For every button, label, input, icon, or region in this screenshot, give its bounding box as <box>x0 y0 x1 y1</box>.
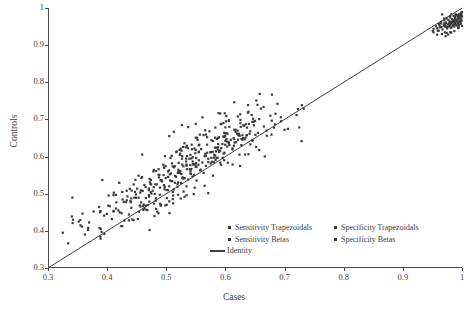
scatter-point <box>441 33 443 35</box>
scatter-point <box>134 191 136 193</box>
y-tick-label: 0.3 <box>18 263 44 272</box>
scatter-point <box>189 170 191 172</box>
scatter-point <box>129 188 131 190</box>
y-tick-label: 0.7 <box>18 114 44 123</box>
scatter-point <box>164 155 166 157</box>
scatter-point <box>213 154 215 156</box>
scatter-point <box>217 143 219 145</box>
scatter-point <box>180 182 182 184</box>
scatter-point <box>248 133 250 135</box>
scatter-point <box>133 183 135 185</box>
legend-row-3: Identity <box>210 245 419 257</box>
scatter-point <box>180 148 182 150</box>
scatter-point <box>100 231 102 233</box>
scatter-point <box>163 188 165 190</box>
scatter-point <box>181 158 183 160</box>
scatter-point <box>99 210 101 212</box>
scatter-point <box>234 131 236 133</box>
scatter-point <box>181 124 183 126</box>
scatter-point <box>236 130 238 132</box>
scatter-point <box>433 28 435 30</box>
x-tick-mark <box>225 268 226 271</box>
scatter-point <box>200 148 202 150</box>
scatter-point <box>233 145 235 147</box>
scatter-point <box>180 150 182 152</box>
scatter-point <box>214 127 216 129</box>
scatter-point <box>225 132 227 134</box>
scatter-point <box>141 154 143 156</box>
scatter-point <box>455 24 457 26</box>
scatter-point <box>246 134 248 136</box>
scatter-point <box>443 17 445 19</box>
scatter-point <box>195 157 197 159</box>
scatter-point <box>187 126 189 128</box>
scatter-point <box>260 108 262 110</box>
legend-item-sensitivity-trapezoidals[interactable]: Sensitivity Trapezoidals <box>228 222 334 234</box>
scatter-point <box>160 179 162 181</box>
scatter-point <box>195 123 197 125</box>
scatter-point <box>198 151 200 153</box>
scatter-point <box>214 159 216 161</box>
scatter-point <box>231 148 233 150</box>
scatter-point <box>237 139 239 141</box>
legend-item-identity[interactable]: Identity <box>210 245 252 257</box>
scatter-point <box>220 164 222 166</box>
scatter-point <box>118 182 120 184</box>
scatter-point <box>131 218 133 220</box>
scatter-point <box>67 242 69 244</box>
scatter-point <box>144 186 146 188</box>
scatter-point <box>218 136 220 138</box>
scatter-point <box>224 144 226 146</box>
scatter-point <box>241 134 243 136</box>
legend-item-specificity-trapezoidals[interactable]: Specificity Trapezoidals <box>334 222 419 234</box>
scatter-point <box>439 25 441 27</box>
scatter-point <box>188 158 190 160</box>
scatter-point <box>228 126 230 128</box>
scatter-point <box>134 179 136 181</box>
scatter-point <box>194 163 196 165</box>
legend-square-marker-icon <box>228 226 231 229</box>
scatter-point <box>280 120 282 122</box>
y-tick-mark <box>45 231 48 232</box>
scatter-point <box>180 197 182 199</box>
scatter-point <box>189 172 191 174</box>
legend-item-sensitivity-betas[interactable]: Sensitivity Betas <box>228 234 334 246</box>
scatter-point <box>225 138 227 140</box>
scatter-point <box>217 157 219 159</box>
scatter-point <box>115 201 117 203</box>
scatter-point <box>113 210 115 212</box>
scatter-point <box>149 183 151 185</box>
scatter-point <box>103 233 105 235</box>
scatter-point <box>212 151 214 153</box>
scatter-point <box>78 220 80 222</box>
scatter-point <box>171 180 173 182</box>
scatter-point <box>224 112 226 114</box>
scatter-point <box>163 166 165 168</box>
scatter-point <box>455 14 457 16</box>
scatter-point <box>187 179 189 181</box>
scatter-point <box>117 209 119 211</box>
x-tick-label: 0.5 <box>151 272 181 282</box>
scatter-point <box>147 204 149 206</box>
scatter-point <box>194 152 196 154</box>
scatter-point <box>239 119 241 121</box>
scatter-point <box>233 129 235 131</box>
scatter-point <box>71 215 73 217</box>
legend-item-specificity-betas[interactable]: Specificity Betas <box>334 234 395 246</box>
scatter-point <box>222 135 224 137</box>
scatter-point <box>264 155 266 157</box>
scatter-point <box>204 153 206 155</box>
scatter-point <box>220 123 222 125</box>
scatter-point <box>103 215 105 217</box>
scatter-point <box>148 189 150 191</box>
scatter-point <box>461 11 463 13</box>
scatter-point <box>233 138 235 140</box>
scatter-point <box>216 138 218 140</box>
scatter-point <box>247 112 249 114</box>
scatter-point <box>265 130 267 132</box>
scatter-point <box>248 123 250 125</box>
scatter-point <box>153 203 155 205</box>
scatter-point <box>160 204 162 206</box>
scatter-point <box>252 140 254 142</box>
scatter-point <box>197 164 199 166</box>
